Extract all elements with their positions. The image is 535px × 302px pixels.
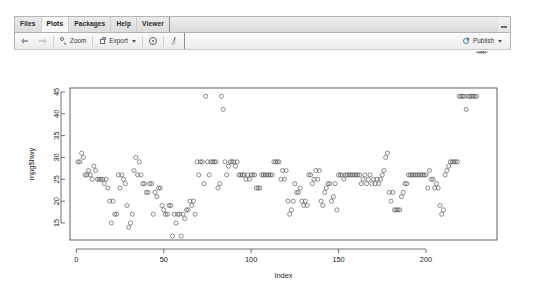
data-point (160, 203, 164, 207)
data-point (223, 160, 227, 164)
data-point (183, 217, 187, 221)
tab-viewer[interactable]: Viewer (137, 17, 169, 32)
remove-plot-icon (149, 37, 157, 45)
plots-toolbar-right-group: Publish (459, 33, 510, 49)
data-point (443, 173, 447, 177)
data-point (440, 212, 444, 216)
tab-packages[interactable]: Packages (69, 17, 111, 32)
data-point (384, 155, 388, 159)
data-points-layer (76, 51, 487, 238)
chevron-down-icon (132, 40, 136, 43)
tab-help-label: Help (116, 21, 131, 28)
tab-files[interactable]: Files (15, 17, 42, 32)
data-point (94, 169, 98, 173)
y-axis: 15202530354045 (53, 88, 66, 227)
data-point (364, 182, 368, 186)
tab-plots-label: Plots (47, 21, 64, 28)
plot-panel-border (70, 88, 497, 240)
x-axis-tick-label: 100 (245, 255, 257, 264)
data-point (291, 199, 295, 203)
data-point (129, 221, 133, 225)
data-point (434, 182, 438, 186)
data-point (155, 195, 159, 199)
scatter-plot: 050100150200 15202530354045 Index mpg$hw… (15, 51, 510, 285)
y-axis-tick-label: 25 (53, 175, 62, 183)
y-axis-tick-label: 15 (53, 219, 62, 227)
tab-group: Files Plots Packages Help Viewer (15, 17, 170, 32)
x-axis-tick-label: 150 (332, 255, 344, 264)
x-axis-label: Index (274, 271, 292, 280)
tab-packages-label: Packages (74, 21, 105, 28)
data-point (330, 199, 334, 203)
data-point (319, 199, 323, 203)
tab-help[interactable]: Help (111, 17, 137, 32)
tab-plots[interactable]: Plots (42, 17, 70, 32)
magnifier-icon (60, 37, 68, 45)
remove-plot-button[interactable] (146, 35, 160, 48)
data-point (216, 186, 220, 190)
data-point (441, 208, 445, 212)
data-point (190, 203, 194, 207)
x-axis-tick-label: 0 (74, 255, 78, 264)
data-point (225, 173, 229, 177)
data-point (331, 195, 335, 199)
data-point (179, 234, 183, 238)
data-point (207, 173, 211, 177)
publish-label: Publish (473, 38, 494, 44)
data-point (293, 182, 297, 186)
data-point (109, 221, 113, 225)
data-point (123, 182, 127, 186)
zoom-button[interactable]: Zoom (57, 35, 89, 48)
y-axis-tick-label: 35 (53, 131, 62, 139)
data-point (447, 164, 451, 168)
zoom-label: Zoom (70, 38, 86, 44)
data-point (233, 164, 237, 168)
data-point (153, 190, 157, 194)
x-axis-tick-label: 200 (420, 255, 432, 264)
publish-button[interactable]: Publish (460, 35, 505, 48)
data-point (102, 182, 106, 186)
data-point (335, 208, 339, 212)
toolbar-divider (142, 36, 143, 47)
toolbar-divider (163, 36, 164, 47)
data-point (288, 212, 292, 216)
minimize-pane-button[interactable] (498, 17, 510, 32)
export-button[interactable]: Export (96, 35, 138, 48)
data-point (92, 164, 96, 168)
data-point (202, 182, 206, 186)
chevron-down-icon (498, 40, 502, 43)
data-point (226, 164, 230, 168)
tab-viewer-label: Viewer (142, 21, 164, 28)
data-point (81, 155, 85, 159)
minimize-icon (501, 26, 507, 28)
data-point (363, 173, 367, 177)
data-point (438, 203, 442, 207)
data-point (197, 173, 201, 177)
y-axis-tick-label: 45 (53, 88, 62, 96)
broom-icon (170, 37, 178, 46)
data-point (399, 195, 403, 199)
data-point (321, 203, 325, 207)
data-point (87, 169, 91, 173)
y-axis-tick-label: 40 (53, 110, 62, 118)
next-plot-button[interactable] (35, 35, 50, 48)
data-point (162, 208, 166, 212)
data-point (204, 94, 208, 98)
data-point (289, 208, 293, 212)
rstudio-plots-pane: Files Plots Packages Help Viewer Zoom (0, 0, 535, 302)
data-point (310, 182, 314, 186)
data-point (218, 182, 222, 186)
data-point (380, 173, 384, 177)
y-axis-tick-label: 20 (53, 197, 62, 205)
data-point (118, 186, 122, 190)
clear-all-plots-button[interactable] (167, 35, 181, 48)
x-axis-tick-label: 50 (160, 255, 168, 264)
data-point (80, 151, 84, 155)
y-axis-label: mpg$hwy (27, 148, 36, 181)
data-point (366, 177, 370, 181)
previous-plot-button[interactable] (18, 35, 33, 48)
data-point (125, 203, 129, 207)
arrow-right-icon (38, 37, 47, 46)
data-point (359, 182, 363, 186)
toolbar-divider (53, 36, 54, 47)
